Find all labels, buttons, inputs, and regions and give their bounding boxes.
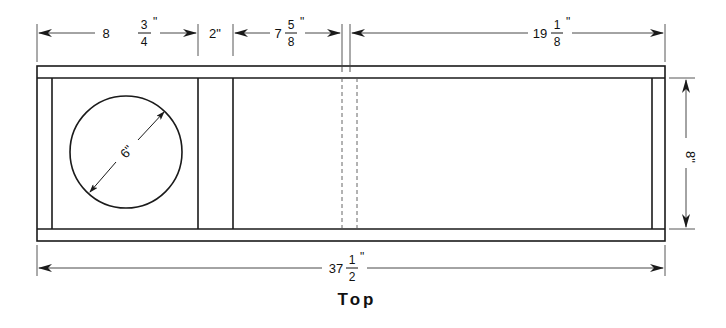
dim-whole: 7 — [274, 26, 281, 41]
dim-denominator: 2 — [349, 270, 356, 284]
dim-denominator: 4 — [141, 35, 148, 49]
dim-numerator: 3 — [141, 18, 148, 32]
dimension-divider-gap: 2" — [209, 26, 221, 41]
dim-unit: " — [153, 15, 157, 29]
dimension-height: 8" — [669, 78, 698, 229]
dimension-right-section: 19 1 8 " — [352, 15, 663, 49]
dim-numerator: 1 — [349, 253, 356, 267]
hidden-lines — [342, 78, 357, 229]
dimension-middle-section: 7 5 8 " — [235, 15, 340, 49]
extension-lines-top — [37, 24, 665, 72]
dim-denominator: 8 — [554, 35, 561, 49]
dim-denominator: 8 — [288, 35, 295, 49]
dim-numerator: 1 — [554, 18, 561, 32]
dimension-left-chamber: 8 3 4 " — [39, 15, 196, 49]
dimension-overall-length: 37 1 2 " — [37, 245, 665, 284]
dim-unit: " — [566, 15, 570, 29]
dim-unit: " — [360, 250, 364, 264]
dim-whole: 8 — [102, 26, 109, 41]
dim-whole: 37 — [329, 261, 343, 276]
height-label: 8" — [683, 151, 698, 163]
dim-whole: 19 — [533, 26, 547, 41]
dim-unit: " — [300, 15, 304, 29]
top-view-drawing: 6" 8 3 4 " 2" 7 5 8 " 19 1 8 " — [0, 0, 726, 328]
view-title: Top — [338, 290, 377, 309]
hole-diameter-dimension: 6" — [90, 112, 164, 192]
hole-diameter-label: 6" — [117, 142, 136, 161]
dim-numerator: 5 — [288, 18, 295, 32]
